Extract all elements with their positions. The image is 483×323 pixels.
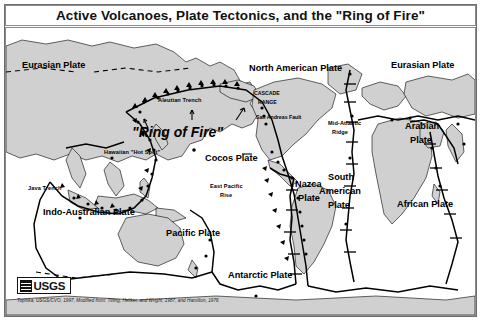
- usgs-wave-icon: [20, 280, 32, 292]
- figure-credit: Topinka, USGS/CVO, 1997, Modified from: …: [17, 298, 437, 303]
- feature-label-java-trench: Java Trench: [28, 186, 61, 192]
- plate-label-african: African Plate: [397, 200, 453, 210]
- feature-label-cascade-range-line2: RANGE: [258, 100, 277, 105]
- page-title: Active Volcanoes, Plate Tectonics, and t…: [56, 8, 425, 23]
- feature-label-east-pacific-rise-line2: Rise: [220, 193, 232, 199]
- feature-label-mid-atlantic-ridge-line1: Mid-Atlantic: [328, 121, 361, 127]
- feature-label-ring-of-fire: "Ring of Fire": [132, 125, 223, 140]
- feature-label-aleutian-trench: Aleutian Trench: [158, 98, 201, 104]
- plate-label-cocos: Cocos Plate: [205, 154, 258, 164]
- plate-label-eurasian-west: Eurasian Plate: [22, 61, 85, 71]
- feature-label-san-andreas-fault: San Andreas Fault: [256, 115, 301, 120]
- figure-title-bar: Active Volcanoes, Plate Tectonics, and t…: [5, 5, 476, 26]
- plate-label-south-american-line1: South: [328, 173, 354, 183]
- plate-label-arabian-line1: Arabian: [405, 122, 439, 132]
- feature-label-east-pacific-rise-line1: East Pacific: [210, 184, 243, 190]
- plate-label-eurasian-east: Eurasian Plate: [391, 61, 454, 71]
- usgs-logo: USGS: [17, 277, 71, 294]
- plate-label-nazca-line1: Nazca: [295, 180, 322, 190]
- world-map-panel: Eurasian Plate Eurasian Plate North Amer…: [5, 27, 476, 316]
- feature-label-mid-atlantic-ridge-line2: Ridge: [332, 130, 348, 136]
- feature-label-cascade-range-line1: CASCADE: [254, 91, 280, 96]
- plate-label-south-american-line2: American: [319, 187, 361, 197]
- usgs-logo-text: USGS: [34, 280, 66, 292]
- plate-label-arabian-line2: Plate: [410, 136, 432, 146]
- plate-label-north-american: North American Plate: [249, 64, 342, 74]
- plate-label-south-american-line3: Plate: [328, 201, 350, 211]
- plate-label-pacific: Pacific Plate: [166, 229, 220, 239]
- figure-root: Active Volcanoes, Plate Tectonics, and t…: [0, 0, 483, 323]
- plate-label-indo-australian: Indo-Australian Plate: [43, 208, 135, 218]
- plate-label-antarctic: Antarctic Plate: [228, 271, 292, 281]
- feature-label-hawaiian-hot-spot: Hawaiian "Hot Spot": [104, 150, 160, 156]
- plate-label-nazca-line2: Plate: [298, 194, 320, 204]
